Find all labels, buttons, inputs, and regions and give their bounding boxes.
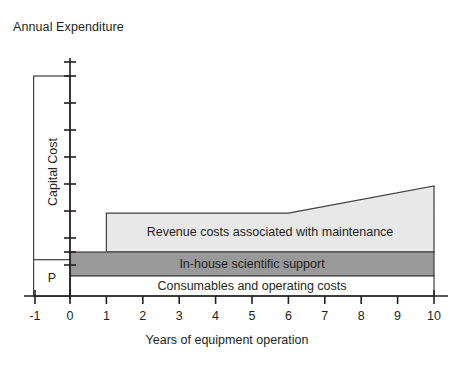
x-tick-label: 0 [67, 309, 74, 323]
x-tick-label: 2 [139, 309, 146, 323]
x-tick-label: 5 [249, 309, 256, 323]
p-label: P [48, 271, 56, 285]
expenditure-chart: Annual Expenditure [0, 0, 454, 365]
x-tick-label: 7 [321, 309, 328, 323]
x-tick-label: 8 [358, 309, 365, 323]
chart-canvas: -1 0 1 2 3 4 5 6 7 8 9 10 Revenue costs … [0, 0, 454, 365]
x-axis-title: Years of equipment operation [0, 333, 454, 347]
band-label-consumables: Consumables and operating costs [157, 279, 346, 293]
band-revenue-costs [106, 186, 434, 252]
x-tick-label: 6 [285, 309, 292, 323]
x-axis-tick-labels: -1 0 1 2 3 4 5 6 7 8 9 10 [29, 309, 441, 323]
band-label-inhouse: In-house scientific support [179, 257, 325, 271]
x-tick-label: -1 [29, 309, 40, 323]
band-label-revenue: Revenue costs associated with maintenanc… [147, 225, 394, 239]
x-tick-label: 3 [176, 309, 183, 323]
x-tick-label: 4 [212, 309, 219, 323]
capital-cost-label: Capital Cost [46, 137, 60, 206]
x-tick-label: 9 [394, 309, 401, 323]
x-tick-label: 10 [427, 309, 441, 323]
x-tick-label: 1 [103, 309, 110, 323]
